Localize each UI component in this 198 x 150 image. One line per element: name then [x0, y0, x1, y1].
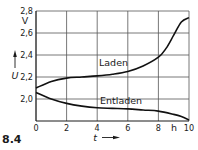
x-tick-label: 10 — [184, 123, 194, 133]
x-axis-arrow-icon — [102, 136, 120, 139]
voltage-time-chart: 2,02,22,42,62,8 0246810 V h U t Laden En… — [0, 0, 198, 150]
y-tick-label: 2,2 — [20, 72, 33, 82]
y-tick-label: 2,6 — [20, 28, 33, 38]
curve-laden — [36, 18, 189, 88]
x-unit-label: h — [171, 122, 177, 133]
x-axis-symbol: t — [93, 132, 98, 143]
y-unit-label: V — [22, 15, 29, 26]
y-axis-symbol: U — [12, 70, 19, 81]
y-axis-arrow-icon — [13, 50, 17, 68]
figure-number: 8.4 — [2, 133, 22, 146]
x-tick-label: 2 — [64, 123, 69, 133]
x-tick-label: 6 — [125, 123, 130, 133]
x-tick-label: 8 — [156, 123, 161, 133]
series-label-laden: Laden — [99, 57, 128, 68]
series-label-entladen: Entladen — [100, 95, 142, 106]
x-tick-label: 0 — [33, 123, 38, 133]
y-tick-label: 2,0 — [20, 94, 33, 104]
y-tick-label: 2,4 — [20, 50, 33, 60]
